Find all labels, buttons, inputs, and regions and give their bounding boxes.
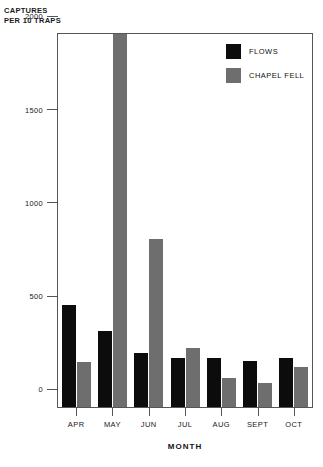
y-axis-tick: 0 xyxy=(15,380,58,398)
bar-group xyxy=(134,34,163,407)
y-axis-tick: 2000 xyxy=(15,7,58,25)
bar-group xyxy=(98,34,127,407)
x-axis-tick-label: JUN xyxy=(141,420,157,429)
x-axis-tick-label: JUL xyxy=(178,420,193,429)
x-axis-tick-mark xyxy=(258,407,259,416)
y-axis-tick-mark xyxy=(47,202,58,203)
x-axis-tick-label: APR xyxy=(68,420,85,429)
y-axis-tick-mark xyxy=(47,109,58,110)
legend-item: CHAPEL FELL xyxy=(226,68,304,83)
legend-label: CHAPEL FELL xyxy=(249,71,304,80)
y-axis-tick-label: 1000 xyxy=(15,199,43,208)
y-axis-tick-mark xyxy=(47,16,58,17)
bar-chart: CAPTURES PER 10 TRAPS 0500100015002000AP… xyxy=(0,0,323,467)
bar-aug-flows xyxy=(207,358,221,407)
bar-group xyxy=(62,34,91,407)
y-axis-tick: 500 xyxy=(15,287,58,305)
x-axis-tick-mark xyxy=(185,407,186,416)
legend-swatch-icon xyxy=(226,68,241,83)
y-axis-tick-label: 0 xyxy=(15,385,43,394)
x-axis-tick-mark xyxy=(149,407,150,416)
x-axis-title: MONTH xyxy=(57,442,313,451)
y-axis-tick: 1000 xyxy=(15,194,58,212)
legend-label: FLOWS xyxy=(249,47,278,56)
x-axis-tick-mark xyxy=(112,407,113,416)
bar-jul-chapel-fell xyxy=(186,348,200,407)
y-axis-tick-label: 500 xyxy=(15,292,43,301)
bar-oct-chapel-fell xyxy=(294,367,308,407)
bar-jun-chapel-fell xyxy=(149,239,163,407)
bar-jul-flows xyxy=(171,358,185,407)
bar-may-chapel-fell xyxy=(113,34,127,407)
x-axis-tick-mark xyxy=(294,407,295,416)
bar-sept-flows xyxy=(243,361,257,407)
bar-oct-flows xyxy=(279,358,293,407)
x-axis-tick-label: AUG xyxy=(213,420,230,429)
bar-aug-chapel-fell xyxy=(222,378,236,407)
x-axis-tick-mark xyxy=(221,407,222,416)
y-axis-tick-mark xyxy=(47,296,58,297)
x-axis-tick-label: MAY xyxy=(104,420,121,429)
y-axis-tick: 1500 xyxy=(15,100,58,118)
bar-apr-chapel-fell xyxy=(77,362,91,407)
chart-legend: FLOWSCHAPEL FELL xyxy=(226,44,304,92)
bar-jun-flows xyxy=(134,353,148,407)
bar-group xyxy=(171,34,200,407)
x-axis-tick-mark xyxy=(76,407,77,416)
y-axis-tick-label: 1500 xyxy=(15,106,43,115)
x-axis-tick-label: OCT xyxy=(285,420,302,429)
legend-item: FLOWS xyxy=(226,44,304,59)
bar-may-flows xyxy=(98,331,112,407)
y-axis-tick-mark xyxy=(47,389,58,390)
bar-apr-flows xyxy=(62,305,76,407)
legend-swatch-icon xyxy=(226,44,241,59)
bar-sept-chapel-fell xyxy=(258,383,272,407)
y-axis-tick-label: 2000 xyxy=(15,12,43,21)
x-axis-tick-label: SEPT xyxy=(247,420,268,429)
